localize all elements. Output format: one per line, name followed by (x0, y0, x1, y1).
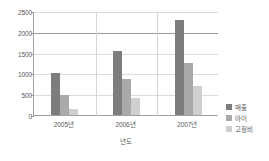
x-axis-tick-label: 2006년 (103, 119, 149, 129)
legend-item-아이[interactable]: 아이 (226, 113, 268, 123)
legend-label: 아이 (235, 113, 247, 123)
legend-item-고정비[interactable]: 고정비 (226, 124, 268, 134)
category-divider (96, 12, 97, 116)
bar-고정비-2007년 (193, 86, 202, 115)
y-axis-tick-label: 500 (2, 92, 32, 99)
bar-매출-2006년 (113, 51, 122, 115)
y-axis-tick-label: 1500 (2, 50, 32, 57)
y-axis-tick-label: 1000 (2, 71, 32, 78)
chart-legend: 매출아이고정비 (226, 102, 268, 135)
x-axis-tick-label: 2007년 (164, 119, 210, 129)
bar-chart: 년도 매출아이고정비 050010001500200025002005년2006… (0, 0, 269, 161)
legend-label: 매출 (235, 102, 247, 112)
bar-아이-2007년 (184, 63, 193, 115)
bar-매출-2005년 (51, 73, 60, 115)
bar-아이-2005년 (60, 95, 69, 115)
plot-area (33, 12, 218, 116)
y-axis-tick-label: 2500 (2, 9, 32, 16)
legend-swatch-icon (226, 104, 232, 110)
bar-고정비-2006년 (131, 98, 140, 115)
bar-매출-2007년 (175, 20, 184, 115)
legend-swatch-icon (226, 126, 232, 132)
x-axis-title: 년도 (33, 136, 218, 146)
legend-item-매출[interactable]: 매출 (226, 102, 268, 112)
bar-group (34, 11, 96, 115)
bar-고정비-2005년 (69, 109, 78, 115)
bar-group (96, 11, 158, 115)
bar-아이-2006년 (122, 79, 131, 115)
y-axis-tick-label: 0 (2, 113, 32, 120)
bar-group (157, 11, 219, 115)
category-divider (157, 12, 158, 116)
x-axis-tick-label: 2005년 (41, 119, 87, 129)
legend-swatch-icon (226, 115, 232, 121)
legend-label: 고정비 (235, 124, 253, 134)
y-axis-tick-label: 2000 (2, 29, 32, 36)
